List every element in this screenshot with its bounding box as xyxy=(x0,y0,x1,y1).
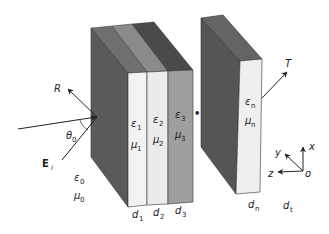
coordinate-axes: x y z o xyxy=(267,141,315,179)
thickness-dt: d t xyxy=(283,200,293,214)
svg-text:0: 0 xyxy=(80,178,84,186)
reflected-label: R xyxy=(54,83,61,94)
y-axis-label: y xyxy=(274,147,282,158)
svg-text:d: d xyxy=(132,209,139,220)
thickness-d1: d 1 xyxy=(132,209,143,223)
thickness-d2: d 2 xyxy=(153,207,164,221)
svg-text:t: t xyxy=(290,206,293,214)
svg-text:n: n xyxy=(255,205,259,213)
transmitted-label: T xyxy=(285,58,292,69)
thickness-dn: d n xyxy=(248,199,259,213)
x-axis-label: x xyxy=(308,141,315,152)
svg-text:d: d xyxy=(153,207,160,218)
thickness-d3: d 3 xyxy=(175,205,186,219)
svg-text:2: 2 xyxy=(160,213,164,221)
incidence-angle-arc xyxy=(80,120,88,130)
svg-text:3: 3 xyxy=(182,211,186,219)
svg-text:2: 2 xyxy=(159,140,163,148)
incidence-angle-label: θ 0 xyxy=(66,130,76,144)
svg-text:i: i xyxy=(51,164,53,172)
svg-text:0: 0 xyxy=(80,196,84,204)
incident-medium-permeability: μ 0 xyxy=(73,190,84,204)
svg-text:1: 1 xyxy=(137,145,141,153)
svg-text:1: 1 xyxy=(139,215,143,223)
z-axis-label: z xyxy=(267,168,274,179)
incident-medium-permittivity: ε 0 xyxy=(74,172,84,186)
svg-text:d: d xyxy=(248,199,255,210)
svg-text:2: 2 xyxy=(159,120,163,128)
y-axis-arrow xyxy=(285,154,303,171)
svg-text:3: 3 xyxy=(181,115,185,123)
z-axis-arrow xyxy=(278,171,303,172)
svg-text:d: d xyxy=(175,205,182,216)
svg-text:d: d xyxy=(283,200,290,211)
svg-text:3: 3 xyxy=(181,135,185,143)
svg-text:0: 0 xyxy=(72,136,76,144)
svg-text:n: n xyxy=(251,121,255,129)
transmitted-ray xyxy=(262,72,287,98)
incident-field-label: E i xyxy=(42,158,53,172)
svg-text:n: n xyxy=(251,102,255,110)
origin-label: o xyxy=(305,168,311,179)
layer-n-front-face xyxy=(236,59,262,194)
svg-text:1: 1 xyxy=(137,124,141,132)
multilayer-diagram: ••• R T E i θ 0 ε 0 μ 0 ε 1 μ 1 ε xyxy=(0,0,329,234)
svg-text:E: E xyxy=(42,158,49,169)
diagram-canvas: ••• R T E i θ 0 ε 0 μ 0 ε 1 μ 1 ε xyxy=(0,0,329,234)
